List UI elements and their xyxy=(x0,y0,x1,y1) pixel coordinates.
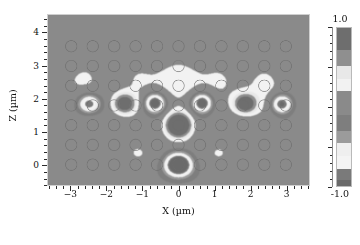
colorbar-tick xyxy=(330,59,332,60)
colorbar-tick xyxy=(330,83,332,84)
x-tick-label: −3 xyxy=(58,190,82,199)
x-tick-minor xyxy=(114,186,115,189)
colorbar-tick xyxy=(328,27,332,28)
x-tick-minor xyxy=(49,186,50,189)
y-tick-minor xyxy=(44,72,47,73)
colorbar-band xyxy=(337,169,351,180)
colorbar-tick xyxy=(330,75,332,76)
x-tick-minor xyxy=(236,186,237,189)
x-tick-minor xyxy=(229,186,230,189)
colorbar-tick xyxy=(330,171,332,172)
y-tick-label: 4 xyxy=(23,28,39,37)
y-tick-minor xyxy=(44,26,47,27)
y-tick-minor xyxy=(44,19,47,20)
colorbar-tick xyxy=(330,139,332,140)
colorbar-tick xyxy=(330,123,332,124)
colorbar-band xyxy=(337,66,351,79)
y-tick-minor xyxy=(44,52,47,53)
x-tick-minor xyxy=(157,186,158,189)
x-tick-minor xyxy=(207,186,208,189)
y-tick-minor xyxy=(44,59,47,60)
x-tick-minor xyxy=(222,186,223,189)
x-tick-minor xyxy=(99,186,100,189)
y-tick-minor xyxy=(44,92,47,93)
x-tick-label: 0 xyxy=(167,190,191,199)
y-tick-label: 3 xyxy=(23,61,39,70)
x-tick-label: 3 xyxy=(275,190,299,199)
y-tick-major xyxy=(42,99,47,100)
colorbar-band xyxy=(337,50,351,66)
colorbar-tick xyxy=(328,187,332,188)
y-tick-minor xyxy=(44,152,47,153)
colorbar-band xyxy=(337,156,351,169)
x-tick-minor xyxy=(193,186,194,189)
x-tick-minor xyxy=(63,186,64,189)
field-heatmap-canvas xyxy=(48,15,309,185)
colorbar-tick xyxy=(328,67,332,68)
colorbar-tick xyxy=(330,51,332,52)
colorbar-min-label: -1.0 xyxy=(318,189,360,199)
field-map-plot-area xyxy=(47,14,310,186)
y-axis-title: Z (µm) xyxy=(7,76,18,136)
x-tick-minor xyxy=(171,186,172,189)
y-tick-major xyxy=(42,165,47,166)
y-tick-minor xyxy=(44,179,47,180)
photonic-crystal-field-figure: 01234−3−2−10123 X (µm) Z (µm) 1.0 -1.0 xyxy=(0,0,360,245)
colorbar-tick xyxy=(330,99,332,100)
y-tick-minor xyxy=(44,46,47,47)
colorbar-band xyxy=(337,28,351,50)
x-axis-title: X (µm) xyxy=(47,205,310,216)
colorbar-tick xyxy=(330,91,332,92)
x-tick-label: 1 xyxy=(203,190,227,199)
x-tick-minor xyxy=(150,186,151,189)
y-tick-minor xyxy=(44,145,47,146)
y-tick-minor xyxy=(44,105,47,106)
colorbar-max-label: 1.0 xyxy=(318,14,360,24)
colorbar-tick xyxy=(328,147,332,148)
colorbar-band xyxy=(337,180,351,186)
x-tick-minor xyxy=(294,186,295,189)
x-tick-minor xyxy=(56,186,57,189)
colorbar-gradient xyxy=(336,27,352,187)
x-tick-minor xyxy=(92,186,93,189)
colorbar-tick xyxy=(330,155,332,156)
y-tick-major xyxy=(42,132,47,133)
y-tick-minor xyxy=(44,185,47,186)
colorbar xyxy=(336,27,352,187)
y-tick-major xyxy=(42,32,47,33)
x-tick-minor xyxy=(128,186,129,189)
y-tick-label: 0 xyxy=(23,161,39,170)
x-tick-minor xyxy=(164,186,165,189)
y-tick-major xyxy=(42,66,47,67)
y-tick-minor xyxy=(44,159,47,160)
x-tick-minor xyxy=(265,186,266,189)
colorbar-band xyxy=(337,131,351,144)
colorbar-tick xyxy=(330,115,332,116)
colorbar-tick xyxy=(328,107,332,108)
x-tick-minor xyxy=(308,186,309,189)
x-tick-minor xyxy=(135,186,136,189)
x-tick-minor xyxy=(272,186,273,189)
y-tick-minor xyxy=(44,119,47,120)
colorbar-axis-line xyxy=(332,27,333,187)
colorbar-tick xyxy=(330,43,332,44)
colorbar-band xyxy=(337,91,351,115)
y-tick-minor xyxy=(44,172,47,173)
x-tick-minor xyxy=(301,186,302,189)
y-tick-minor xyxy=(44,112,47,113)
x-tick-minor xyxy=(121,186,122,189)
y-tick-label: 2 xyxy=(23,94,39,103)
colorbar-tick xyxy=(330,35,332,36)
x-tick-minor xyxy=(279,186,280,189)
colorbar-tick xyxy=(330,179,332,180)
x-tick-minor xyxy=(85,186,86,189)
x-tick-minor xyxy=(243,186,244,189)
x-tick-label: −1 xyxy=(130,190,154,199)
x-tick-minor xyxy=(258,186,259,189)
y-tick-minor xyxy=(44,125,47,126)
colorbar-band xyxy=(337,79,351,92)
colorbar-tick xyxy=(330,163,332,164)
y-tick-minor xyxy=(44,86,47,87)
x-tick-minor xyxy=(186,186,187,189)
colorbar-band xyxy=(337,143,351,156)
